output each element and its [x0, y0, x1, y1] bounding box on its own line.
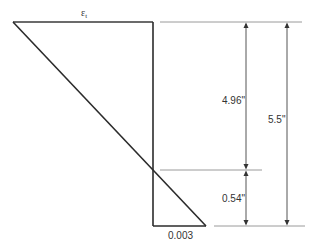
strain-profile	[13, 22, 206, 226]
bottom-strain-label: 0.003	[168, 231, 193, 241]
arrow-up-icon	[244, 23, 249, 29]
dim-label-lower: 0.54"	[222, 194, 245, 204]
top-strain-label: εt	[81, 8, 87, 20]
arrow-down-icon	[285, 220, 290, 226]
epsilon-subscript: t	[85, 12, 87, 20]
arrow-down-icon	[244, 220, 249, 226]
dim-label-upper: 4.96"	[222, 96, 245, 106]
arrow-up-icon	[244, 171, 249, 177]
dim-label-total: 5.5"	[268, 115, 285, 125]
arrow-down-icon	[244, 164, 249, 170]
arrow-up-icon	[285, 23, 290, 29]
strain-gradient-line	[13, 22, 206, 226]
